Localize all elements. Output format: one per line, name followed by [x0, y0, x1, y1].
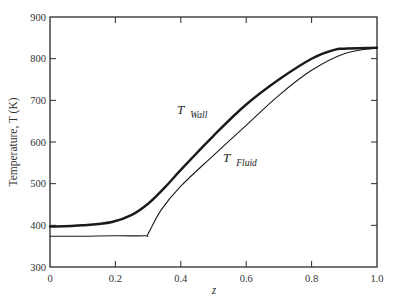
ticks: 00.20.40.60.81.0300400500600700800900	[30, 12, 383, 285]
wall-temperature-curve	[50, 48, 377, 227]
y-tick-label: 900	[30, 12, 46, 23]
x-tick-label: 0.2	[109, 273, 122, 284]
wall-curve-label: T Wall	[177, 100, 208, 120]
y-tick-label: 500	[30, 178, 46, 189]
y-tick-label: 700	[30, 95, 46, 106]
x-tick-label: 0	[47, 273, 52, 284]
y-tick-label: 800	[30, 53, 46, 64]
y-tick-label: 400	[30, 220, 46, 231]
fluid-temperature-curve	[50, 48, 377, 237]
fluid-curve-label: T Fluid	[223, 148, 257, 168]
y-tick-label: 600	[30, 137, 46, 148]
plot-border	[50, 17, 377, 267]
y-axis-title: Temperature, T (K)	[7, 97, 20, 186]
x-tick-label: 1.0	[370, 273, 383, 284]
x-tick-label: 0.8	[305, 273, 318, 284]
x-tick-label: 0.6	[240, 273, 253, 284]
x-axis-title: z	[211, 284, 217, 296]
plot-frame	[50, 17, 377, 267]
curves	[50, 48, 377, 237]
y-tick-label: 300	[30, 262, 46, 273]
x-tick-label: 0.4	[174, 273, 188, 284]
chart: 00.20.40.60.81.0300400500600700800900 Te…	[0, 0, 396, 301]
